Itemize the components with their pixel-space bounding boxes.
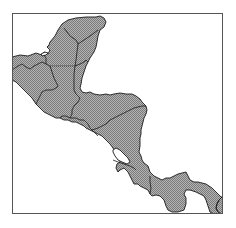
landmass — [12, 16, 223, 214]
land-group — [12, 16, 223, 214]
map-canvas — [0, 0, 236, 228]
central-america-map — [0, 0, 236, 228]
